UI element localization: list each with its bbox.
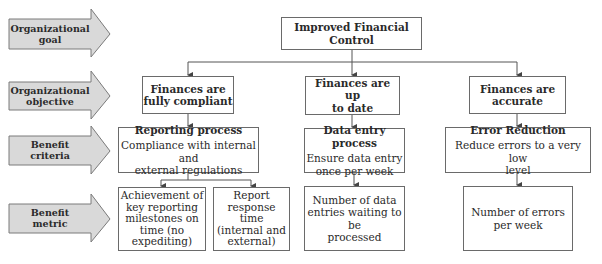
criteria-box-data-entry: Data entry process Ensure data entryonce… (304, 128, 405, 173)
criteria-box-error-reduction: Error Reduction Reduce errors to a very … (445, 127, 591, 173)
level-arrow-criteria: Benefitcriteria (0, 125, 115, 175)
objective-box-compliant: Finances arefully compliant (142, 76, 234, 114)
level-arrow-metric: Benefitmetric (0, 193, 115, 243)
objective-box-accurate: Finances areaccurate (469, 76, 566, 114)
level-arrow-objective: Organizationalobjective (0, 70, 115, 120)
level-label: Organizationalgoal (9, 23, 91, 45)
metric-box-response-time: Reportresponse time(internal andexternal… (213, 187, 290, 251)
criteria-box-reporting: Reporting process Compliance with intern… (118, 127, 259, 173)
objective-box-up-to-date: Finances are upto date (305, 76, 400, 115)
metric-box-milestones: Achievement ofkey reportingmilestones on… (118, 187, 206, 251)
goal-box: Improved FinancialControl (281, 17, 422, 50)
metric-box-data-entries: Number of dataentries waiting to beproce… (304, 186, 405, 251)
metric-box-errors: Number of errorsper week (463, 186, 573, 251)
level-arrow-goal: Organizationalgoal (0, 8, 115, 58)
level-label: Benefitcriteria (9, 139, 91, 161)
level-label: Organizationalobjective (9, 85, 91, 107)
level-label: Benefitmetric (9, 207, 91, 229)
